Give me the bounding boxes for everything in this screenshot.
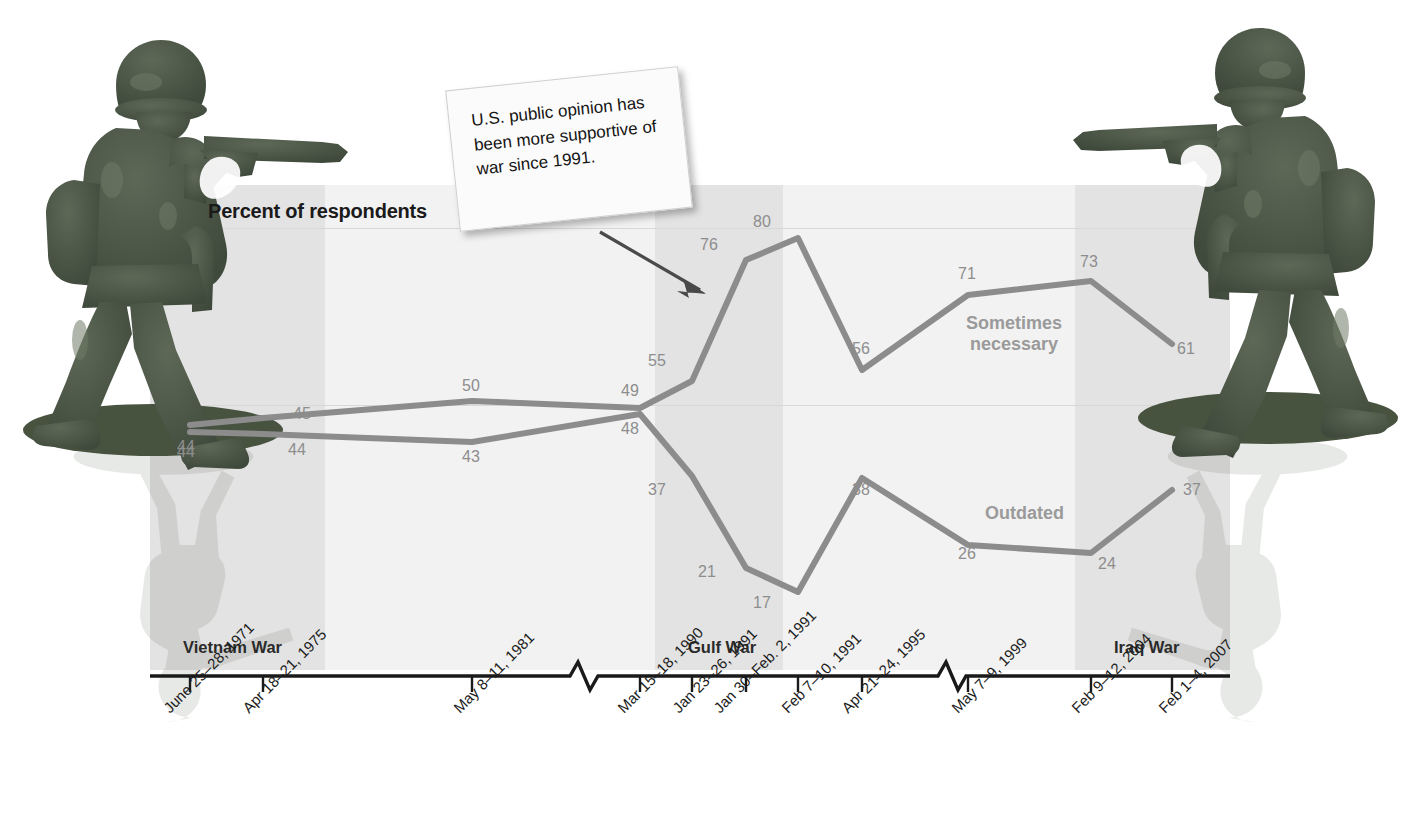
data-label: 43 bbox=[462, 448, 480, 466]
page-title: Percent of respondents bbox=[208, 200, 427, 223]
data-label: 49 bbox=[621, 382, 639, 400]
data-label: 44 bbox=[288, 441, 306, 459]
data-label: 37 bbox=[1183, 481, 1201, 499]
data-label: 48 bbox=[621, 420, 639, 438]
data-label: 44 bbox=[177, 443, 195, 461]
data-label: 80 bbox=[753, 213, 771, 231]
data-label: 37 bbox=[648, 481, 666, 499]
data-label: 45 bbox=[293, 405, 311, 423]
soldier-left bbox=[8, 30, 368, 500]
series-label-sometimes-necessary-line1: Sometimes bbox=[966, 313, 1062, 333]
data-label: 38 bbox=[852, 481, 870, 499]
data-label: 73 bbox=[1080, 253, 1098, 271]
series-label-sometimes-necessary-line2: necessary bbox=[970, 334, 1058, 354]
series-label-sometimes-necessary: Sometimes necessary bbox=[966, 313, 1062, 354]
data-label: 24 bbox=[1098, 555, 1116, 573]
data-label: 26 bbox=[958, 545, 976, 563]
chart-figure: Percent of respondents U.S. public opini… bbox=[0, 0, 1421, 830]
data-label: 56 bbox=[852, 340, 870, 358]
data-label: 55 bbox=[648, 352, 666, 370]
data-label: 17 bbox=[753, 594, 771, 612]
data-label: 71 bbox=[958, 265, 976, 283]
series-label-outdated: Outdated bbox=[985, 503, 1064, 524]
data-label: 61 bbox=[1177, 340, 1195, 358]
data-label: 50 bbox=[462, 377, 480, 395]
data-label: 76 bbox=[700, 236, 718, 254]
callout-note: U.S. public opinion has been more suppor… bbox=[445, 66, 693, 232]
data-label: 21 bbox=[698, 563, 716, 581]
callout-note-text: U.S. public opinion has been more suppor… bbox=[470, 89, 673, 183]
soldier-right bbox=[1053, 18, 1413, 488]
